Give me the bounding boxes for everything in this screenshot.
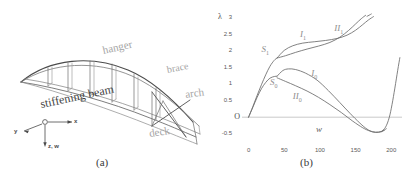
curve-II0-tail xyxy=(381,58,400,132)
x-axis-label-w: w xyxy=(316,124,322,134)
caption-panel-b: (b) xyxy=(300,156,313,168)
z-axis-arrow xyxy=(43,142,46,147)
ytick--0.5: -0.5 xyxy=(216,130,232,136)
curve-I1 xyxy=(277,17,373,58)
chart-curves-layer xyxy=(242,14,402,132)
origin-marker xyxy=(43,120,48,125)
left-end-edge xyxy=(21,79,25,82)
curve-label-II0: II0 xyxy=(293,91,302,103)
arch-right-end xyxy=(199,126,200,134)
ytick-1.5: 1.5 xyxy=(216,64,232,70)
curve-label-S1: S1 xyxy=(261,44,269,56)
curve-label-I1: I1 xyxy=(300,29,306,41)
y-axis-symbol-lambda: λ xyxy=(218,12,222,21)
bifurcation-plot xyxy=(204,0,408,178)
figure-container: hanger brace arch deck stiffening beam x… xyxy=(0,0,408,178)
curve-I1-tail xyxy=(367,14,371,16)
panel-a-bridge-diagram: hanger brace arch deck stiffening beam x… xyxy=(0,0,204,178)
xtick-50: 50 xyxy=(278,147,290,153)
ytick-0.5: 0.5 xyxy=(216,97,232,103)
ytick-2: 2 xyxy=(216,47,232,53)
y-axis-line xyxy=(24,124,42,131)
axis-label-x: x xyxy=(74,118,77,124)
xtick-0: 0 xyxy=(243,147,255,153)
x-axis-arrow xyxy=(68,120,73,124)
curve-II1 xyxy=(277,15,365,58)
curve-label-S0: S0 xyxy=(270,77,278,89)
axis-label-zw: z, w xyxy=(48,143,59,149)
ytick-O: O xyxy=(220,112,240,121)
curve-II0 xyxy=(277,78,386,133)
curve-label-I0: I0 xyxy=(311,68,317,80)
curve-label-II1: II1 xyxy=(334,23,343,35)
xtick-100: 100 xyxy=(314,147,326,153)
caption-panel-a: (a) xyxy=(96,156,108,168)
xtick-200: 200 xyxy=(385,147,397,153)
ytick-1: 1 xyxy=(216,80,232,86)
xtick-150: 150 xyxy=(350,147,362,153)
ytick-2.5: 2.5 xyxy=(216,31,232,37)
panel-b-bifurcation-chart: (b) -0.5O0.511.522.53050100150200λwS1I1I… xyxy=(204,0,408,178)
axis-label-y: y xyxy=(14,128,17,134)
deck-right-end xyxy=(193,122,197,144)
